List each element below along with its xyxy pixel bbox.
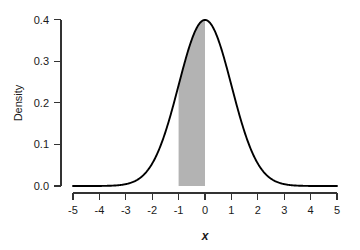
x-tick-label: -2: [147, 204, 157, 216]
x-tick-label: 2: [255, 204, 261, 216]
plot-canvas: 0.00.10.20.30.4 -5-4-3-2-1012345 x Densi…: [0, 0, 360, 250]
y-tick-label: 0.0: [34, 180, 49, 192]
y-tick-label: 0.2: [34, 97, 49, 109]
y-tick-label: 0.1: [34, 138, 49, 150]
x-tick-label: 0: [202, 204, 208, 216]
x-axis-title: x: [201, 229, 210, 243]
x-tick-label: -4: [95, 204, 105, 216]
x-tick-label: 4: [308, 204, 314, 216]
x-tick-label: 3: [281, 204, 287, 216]
y-axis-title: Density: [12, 84, 24, 121]
x-tick-label: -3: [121, 204, 131, 216]
x-tick-label: 1: [228, 204, 234, 216]
y-tick-label: 0.4: [34, 14, 49, 26]
density-plot-figure: 0.00.10.20.30.4 -5-4-3-2-1012345 x Densi…: [0, 0, 360, 250]
x-tick-label: 5: [334, 204, 340, 216]
x-tick-label: -1: [174, 204, 184, 216]
y-tick-label: 0.3: [34, 55, 49, 67]
x-tick-label: -5: [68, 204, 78, 216]
